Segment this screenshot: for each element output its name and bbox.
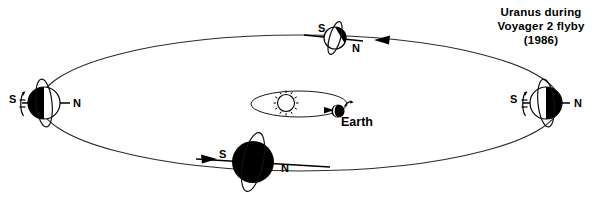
uranus-left-south-label: S: [9, 93, 16, 105]
uranus-orbit-path: [40, 35, 560, 171]
caption-line-3: (1986): [524, 34, 558, 46]
uranus-top-body: [324, 27, 346, 49]
uranus-orbit-diagram: Earth S N: [0, 0, 611, 217]
diagram-caption: Uranus during Voyager 2 flyby (1986): [497, 6, 585, 46]
uranus-position-bottom: S N: [196, 131, 330, 194]
diagram-canvas: Earth S N: [0, 0, 611, 217]
uranus-top-north-label: N: [352, 42, 360, 54]
uranus-left-north-label: N: [73, 97, 81, 109]
uranus-left-body: [28, 87, 60, 119]
uranus-position-left: S N: [9, 78, 81, 127]
uranus-bottom-south-label: S: [219, 148, 226, 160]
uranus-right-south-label: S: [510, 93, 517, 105]
uranus-bottom-north-label: N: [281, 162, 289, 174]
uranus-top-south-label: S: [318, 22, 325, 34]
caption-line-2: Voyager 2 flyby: [497, 20, 585, 32]
sun-icon: [274, 91, 299, 116]
orbit-direction-arrow-icon: [374, 36, 390, 45]
uranus-position-top: S N: [304, 20, 363, 56]
caption-line-1: Uranus during: [500, 6, 581, 18]
earth-label: Earth: [341, 115, 373, 129]
uranus-right-body: [530, 87, 562, 119]
uranus-bottom-body: [232, 141, 274, 183]
uranus-right-north-label: N: [574, 97, 582, 109]
uranus-position-right: S N: [510, 78, 582, 127]
